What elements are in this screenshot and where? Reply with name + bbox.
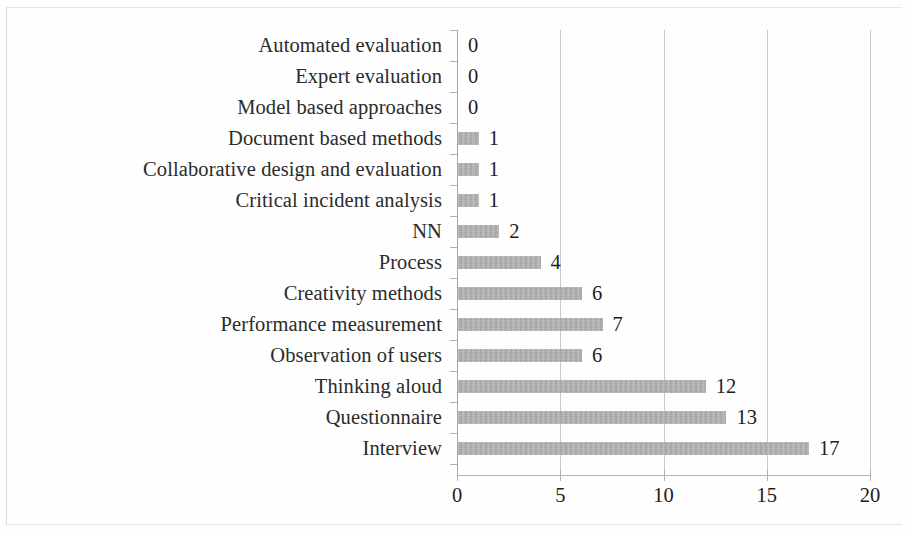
bar-value-label: 4 [551,247,561,278]
bar [458,411,726,424]
bar-row: Thinking aloud12 [0,371,908,402]
category-label: Performance measurement [221,309,442,340]
bar-row: Performance measurement7 [0,309,908,340]
value-axis-label-10: 10 [634,484,694,507]
bar-value-label: 17 [819,433,840,464]
bar [458,318,603,331]
bar-row: Expert evaluation0 [0,61,908,92]
category-label: Model based approaches [237,92,442,123]
value-axis-label-0: 0 [427,484,487,507]
bar [458,380,706,393]
category-label: Observation of users [270,340,442,371]
value-tick-20 [870,470,871,481]
bar-row: Observation of users6 [0,340,908,371]
bar [458,132,479,145]
bar-row: Automated evaluation0 [0,30,908,61]
bar [458,287,582,300]
bar-value-label: 0 [468,30,478,61]
bar-row: Process4 [0,247,908,278]
value-axis-label-5: 5 [530,484,590,507]
bar-value-label: 0 [468,61,478,92]
bar [458,349,582,362]
value-axis-label-15: 15 [737,484,797,507]
bar-value-label: 6 [592,340,602,371]
category-label: Creativity methods [284,278,442,309]
bar-row: NN2 [0,216,908,247]
category-label: Interview [363,433,442,464]
bar [458,225,499,238]
bar-value-label: 0 [468,92,478,123]
category-label: Collaborative design and evaluation [143,154,442,185]
value-tick-0 [457,470,458,481]
bar [458,163,479,176]
category-label: Automated evaluation [258,30,442,61]
category-tick [450,464,457,465]
category-label: Thinking aloud [315,371,442,402]
bar-value-label: 1 [489,154,499,185]
category-label: Critical incident analysis [236,185,442,216]
bar-row: Model based approaches0 [0,92,908,123]
category-label: NN [412,216,442,247]
category-label: Process [379,247,442,278]
bar-row: Critical incident analysis1 [0,185,908,216]
bar-row: Document based methods1 [0,123,908,154]
value-axis-label-20: 20 [840,484,900,507]
scanned-page: Automated evaluation0Expert evaluation0M… [0,0,908,537]
value-tick-15 [767,470,768,481]
category-label: Document based methods [228,123,442,154]
bar-row: Interview17 [0,433,908,464]
bar [458,194,479,207]
bar-row: Questionnaire13 [0,402,908,433]
category-label: Expert evaluation [295,61,442,92]
bar-value-label: 6 [592,278,602,309]
bar-value-label: 13 [736,402,757,433]
bar [458,256,541,269]
bar-value-label: 2 [509,216,519,247]
category-label: Questionnaire [326,402,442,433]
value-tick-10 [664,470,665,481]
bar-row: Creativity methods6 [0,278,908,309]
value-tick-5 [560,470,561,481]
bar-value-label: 1 [489,123,499,154]
bar-row: Collaborative design and evaluation1 [0,154,908,185]
bar-value-label: 12 [716,371,737,402]
bar-value-label: 7 [613,309,623,340]
bar [458,442,809,455]
horizontal-bar-chart: Automated evaluation0Expert evaluation0M… [0,0,908,537]
bar-value-label: 1 [489,185,499,216]
